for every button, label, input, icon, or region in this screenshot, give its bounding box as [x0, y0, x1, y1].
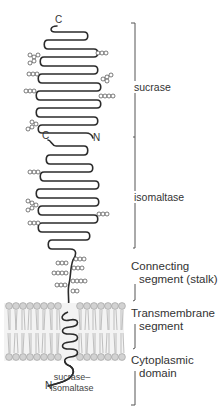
transmembrane-label: Transmembrane segment: [131, 307, 215, 333]
isomaltase-label: isomaltase: [134, 191, 184, 203]
stalk-label-line1: Connecting: [131, 260, 218, 273]
stalk-label: Connecting segment (stalk): [131, 260, 218, 286]
sucrase-c-terminus-label: C: [55, 15, 62, 25]
sucrase-bracket: [131, 23, 135, 137]
cytoplasmic-label-line1: Cytoplasmic: [131, 354, 194, 367]
cytoplasmic-label-line2: domain: [131, 367, 194, 380]
cytoplasmic-label: Cytoplasmic domain: [131, 354, 194, 380]
sucrase-label: sucrase: [134, 81, 171, 93]
sucrase-n-terminus-label: N: [93, 133, 100, 143]
protein-name-label: sucrase– isomaltase: [42, 372, 102, 394]
protein-name-line1: sucrase–: [42, 372, 102, 383]
transmembrane-label-line1: Transmembrane: [131, 307, 215, 320]
isomaltase-chain: [36, 140, 99, 312]
lipid-bilayer: [4, 303, 125, 361]
stalk-label-line2: segment (stalk): [131, 273, 218, 286]
stalk-bracket: [133, 284, 135, 301]
protein-name-line2: isomaltase: [42, 383, 102, 394]
isomaltase-c-terminus-label: C: [42, 131, 49, 141]
diagram-canvas: [0, 0, 222, 410]
sucrase-chain: [36, 26, 101, 138]
transmembrane-label-line2: segment: [131, 320, 215, 333]
